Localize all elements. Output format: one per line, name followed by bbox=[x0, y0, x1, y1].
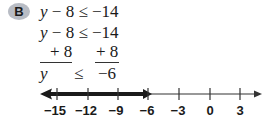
tick-label: 0 bbox=[206, 103, 213, 118]
tick-label: −12 bbox=[75, 103, 97, 118]
tick-label: −15 bbox=[44, 103, 66, 118]
right-arrow-icon bbox=[254, 91, 262, 98]
tick-label: −9 bbox=[109, 103, 124, 118]
tick-label: 3 bbox=[236, 103, 243, 118]
number-line bbox=[0, 0, 269, 131]
tick-label: −3 bbox=[171, 103, 186, 118]
tick-label: −6 bbox=[140, 103, 155, 118]
